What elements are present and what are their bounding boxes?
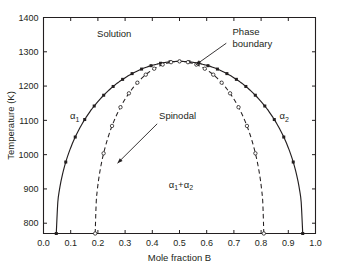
spinodal-arrow xyxy=(117,124,157,163)
y-tick-label-0: 800 xyxy=(23,218,38,228)
spinodal-point xyxy=(153,67,156,70)
spinodal-point xyxy=(102,152,105,155)
spinodal-point xyxy=(245,124,248,127)
phase-boundary-point xyxy=(140,68,143,71)
spinodal-markers xyxy=(93,60,265,236)
phase-diagram-figure: 0.00.10.20.30.40.50.60.70.80.91.0 800900… xyxy=(0,0,338,279)
phase-boundary-arrow xyxy=(196,43,226,65)
phase-boundary-point xyxy=(131,72,134,75)
x-tick-label-5: 0.5 xyxy=(173,238,186,248)
x-axis-title: Mole fraction B xyxy=(148,252,211,263)
phase-boundary-curve xyxy=(56,61,302,233)
phase-boundary-point xyxy=(216,68,219,71)
spinodal-point xyxy=(186,60,189,63)
phase-boundary-point xyxy=(263,105,266,108)
twophase-subscript-2: 2 xyxy=(189,184,193,191)
phase-diagram-chart: 0.00.10.20.30.40.50.60.70.80.91.0 800900… xyxy=(0,0,338,279)
spinodal-label: Spinodal xyxy=(159,110,196,121)
y-tick-label-6: 1400 xyxy=(18,13,38,23)
x-tick-label-6: 0.6 xyxy=(200,238,213,248)
phase-boundary-point xyxy=(273,118,276,121)
phase-boundary-point xyxy=(55,232,58,235)
phase-boundary-point xyxy=(292,161,295,164)
alpha1-region-label: α1 xyxy=(70,110,80,123)
spinodal-point xyxy=(220,81,223,84)
plot-frame xyxy=(44,18,316,234)
spinodal-point xyxy=(93,232,96,235)
phase-boundary-point xyxy=(244,85,247,88)
x-axis-tick-labels: 0.00.10.20.30.40.50.60.70.80.91.0 xyxy=(37,238,322,248)
phase-boundary-markers xyxy=(55,60,304,235)
y-tick-label-2: 1000 xyxy=(18,150,38,160)
y-axis-title: Temperature (K) xyxy=(5,91,16,160)
spinodal-point xyxy=(127,92,130,95)
x-tick-label-10: 1.0 xyxy=(309,238,322,248)
y-axis-tick-labels: 80090010001100120013001400 xyxy=(18,13,38,229)
solution-region-label: Solution xyxy=(97,28,131,39)
phase-boundary-point xyxy=(74,136,77,139)
spinodal-curve xyxy=(95,61,264,233)
phase-boundary-point xyxy=(150,64,153,67)
two-phase-region-label: α1+α2 xyxy=(169,179,193,192)
phase-boundary-point xyxy=(112,85,115,88)
x-tick-label-1: 0.1 xyxy=(64,238,77,248)
phase-boundary-point xyxy=(102,94,105,97)
alpha2-region-label: α2 xyxy=(280,110,290,123)
phase-boundary-point xyxy=(83,118,86,121)
x-tick-label-2: 0.2 xyxy=(92,238,105,248)
phase-boundary-point xyxy=(64,161,67,164)
spinodal-point xyxy=(161,63,164,66)
phase-boundary-point xyxy=(254,94,257,97)
phase-boundary-point xyxy=(301,232,304,235)
spinodal-point xyxy=(212,73,215,76)
x-tick-label-3: 0.3 xyxy=(119,238,132,248)
spinodal-point xyxy=(203,67,206,70)
spinodal-point xyxy=(169,60,172,63)
y-tick-label-5: 1300 xyxy=(18,47,38,57)
spinodal-point xyxy=(110,124,113,127)
y-tick-label-1: 900 xyxy=(23,184,38,194)
phase-boundary-point xyxy=(93,105,96,108)
x-tick-label-9: 0.9 xyxy=(282,238,295,248)
phase-boundary-point xyxy=(235,78,238,81)
y-tick-label-4: 1200 xyxy=(18,81,38,91)
x-tick-label-7: 0.7 xyxy=(228,238,241,248)
spinodal-point xyxy=(262,232,265,235)
phase-boundary-label-line1: Phase xyxy=(233,26,260,37)
alpha1-subscript: 1 xyxy=(76,116,80,123)
phase-boundary-point xyxy=(225,72,228,75)
alpha2-subscript: 2 xyxy=(285,116,289,123)
x-axis-ticks xyxy=(44,18,316,234)
spinodal-point xyxy=(119,106,122,109)
phase-boundary-point xyxy=(282,136,285,139)
y-tick-label-3: 1100 xyxy=(19,116,38,126)
x-tick-label-4: 0.4 xyxy=(146,238,159,248)
x-tick-label-0: 0.0 xyxy=(37,238,50,248)
spinodal-point xyxy=(228,92,231,95)
phase-boundary-point xyxy=(121,78,124,81)
spinodal-point xyxy=(254,152,257,155)
phase-boundary-point xyxy=(206,64,209,67)
x-tick-label-8: 0.8 xyxy=(255,238,268,248)
spinodal-point xyxy=(178,60,181,63)
spinodal-point xyxy=(136,81,139,84)
spinodal-point xyxy=(144,73,147,76)
phase-boundary-label-line2: boundary xyxy=(233,38,273,49)
spinodal-point xyxy=(237,106,240,109)
